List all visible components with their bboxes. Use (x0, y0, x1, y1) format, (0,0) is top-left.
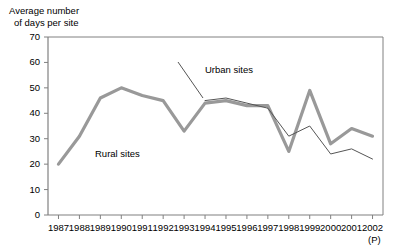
annotation-leader-line-group (178, 62, 203, 98)
plot-area (0, 0, 411, 247)
axes-group (44, 37, 383, 219)
chart-container: Average number of days per site 01020304… (0, 0, 411, 247)
series-group (58, 88, 372, 164)
urban-sites-leader-line (178, 62, 203, 98)
